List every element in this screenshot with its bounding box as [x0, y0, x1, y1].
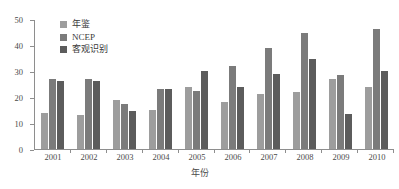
bar-group	[250, 20, 286, 149]
bar	[41, 113, 48, 149]
bar	[121, 104, 128, 150]
bar	[365, 87, 372, 149]
bar	[237, 87, 244, 149]
bar	[77, 115, 84, 149]
bar	[149, 110, 156, 149]
y-axis-tick-label: 20	[15, 93, 24, 103]
bar-group	[143, 20, 179, 149]
x-axis-tick-label: 2008	[287, 152, 323, 162]
x-axis-tick-label: 2007	[251, 152, 287, 162]
bar	[257, 94, 264, 149]
bar	[265, 48, 272, 149]
bar	[381, 71, 388, 149]
legend-item-label: 客观识别	[72, 45, 108, 54]
x-axis-tick-label: 2006	[215, 152, 251, 162]
bar-group	[322, 20, 358, 149]
bar	[93, 81, 100, 149]
x-axis-labels: 2001200220032004200520062007200820092010	[35, 152, 395, 162]
bar	[293, 92, 300, 149]
bar-chart: 01020304050 2001200220032004200520062007…	[0, 0, 399, 189]
legend-swatch-icon	[60, 21, 67, 28]
bar	[193, 91, 200, 150]
x-axis-tick-label: 2004	[143, 152, 179, 162]
x-axis-title: 年份	[0, 166, 399, 179]
y-axis-tick-label: 50	[15, 15, 24, 25]
x-axis-tick-label: 2002	[71, 152, 107, 162]
legend-item-label: NCEP	[72, 33, 95, 42]
bar-group	[358, 20, 394, 149]
x-axis-tick-label: 2009	[323, 152, 359, 162]
bar	[185, 87, 192, 149]
bar	[113, 100, 120, 149]
bar	[345, 114, 352, 149]
bar	[165, 89, 172, 149]
bar	[229, 66, 236, 149]
bar	[273, 74, 280, 149]
y-axis-tick: 20	[30, 98, 34, 99]
bar	[309, 59, 316, 149]
y-axis-tick-label: 40	[15, 41, 24, 51]
legend-item-yearbook: 年鉴	[60, 20, 108, 29]
x-axis-tick-label: 2003	[107, 152, 143, 162]
bar	[301, 33, 308, 149]
legend-item-ncep: NCEP	[60, 33, 108, 42]
y-axis-tick-label: 0	[19, 145, 23, 155]
bar	[201, 71, 208, 149]
y-axis-tick: 0	[30, 150, 34, 151]
x-axis-tick-label: 2001	[35, 152, 71, 162]
bar	[129, 111, 136, 149]
y-axis-tick-label: 10	[15, 119, 24, 129]
bar	[85, 79, 92, 149]
bar	[329, 79, 336, 149]
y-axis-tick: 40	[30, 46, 34, 47]
bar-group	[107, 20, 143, 149]
bar-group	[286, 20, 322, 149]
bar	[221, 102, 228, 149]
x-axis-tick-label: 2005	[179, 152, 215, 162]
bar-group	[179, 20, 215, 149]
y-axis-tick: 10	[30, 124, 34, 125]
y-axis-tick: 30	[30, 72, 34, 73]
legend-swatch-icon	[60, 34, 67, 41]
bar	[337, 75, 344, 149]
legend-item-objective-identification: 客观识别	[60, 45, 108, 54]
bar	[49, 79, 56, 149]
bar	[57, 81, 64, 149]
legend: 年鉴 NCEP 客观识别	[60, 20, 108, 54]
legend-swatch-icon	[60, 46, 67, 53]
y-axis-tick-label: 30	[15, 67, 24, 77]
bar	[157, 89, 164, 149]
y-axis-tick: 50	[30, 20, 34, 21]
x-axis-tick-label: 2010	[359, 152, 395, 162]
legend-item-label: 年鉴	[72, 20, 90, 29]
bar-group	[215, 20, 251, 149]
bar	[373, 29, 380, 149]
